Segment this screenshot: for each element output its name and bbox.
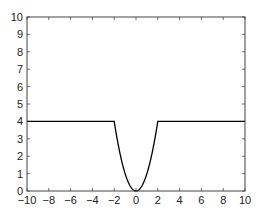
y-tick-label: 6 bbox=[17, 81, 23, 93]
x-tick-label: −6 bbox=[64, 194, 77, 206]
y-tick-label: 10 bbox=[11, 11, 23, 23]
y-tick-label: 5 bbox=[17, 98, 23, 110]
x-tick-label: 4 bbox=[177, 194, 183, 206]
x-tick-label: 6 bbox=[198, 194, 204, 206]
x-tick-label: −2 bbox=[108, 194, 121, 206]
x-tick-label: −4 bbox=[86, 194, 99, 206]
y-tick-label: 4 bbox=[17, 115, 23, 127]
x-tick-label: 10 bbox=[239, 194, 251, 206]
y-tick-label: 2 bbox=[17, 150, 23, 162]
y-tick-label: 9 bbox=[17, 28, 23, 40]
x-tick-label: 8 bbox=[220, 194, 226, 206]
x-tick-label: −10 bbox=[18, 194, 37, 206]
x-tick-label: 2 bbox=[155, 194, 161, 206]
x-tick-label: 0 bbox=[133, 194, 139, 206]
line-chart: 012345678910 −10−8−6−4−20246810 bbox=[0, 0, 263, 214]
x-tick-label: −8 bbox=[43, 194, 56, 206]
plot-area bbox=[27, 17, 245, 191]
y-tick-label: 8 bbox=[17, 46, 23, 58]
y-tick-label: 7 bbox=[17, 63, 23, 75]
y-tick-label: 3 bbox=[17, 133, 23, 145]
y-tick-label: 1 bbox=[17, 168, 23, 180]
